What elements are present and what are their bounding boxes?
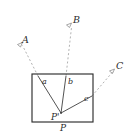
label-point-c: C: [116, 61, 123, 71]
dashed-line-to-c: [92, 72, 113, 97]
dashed-line-to-b: [66, 28, 72, 77]
label-angle-b: b: [68, 78, 73, 86]
ray-p-prime-to-b: [61, 76, 66, 113]
triangle-marker-b-icon: [67, 23, 72, 28]
geometry-figure: A B C a b c P' P: [0, 0, 140, 139]
dashed-line-to-a: [23, 46, 39, 77]
label-point-b: B: [73, 15, 80, 25]
label-angle-c: c: [84, 95, 88, 103]
vertex-dot-p-prime: [60, 112, 62, 114]
label-surface-p: P: [60, 124, 66, 133]
label-angle-a: a: [42, 78, 47, 86]
triangle-marker-c-icon: [110, 69, 115, 74]
label-point-a: A: [22, 35, 29, 45]
label-point-p-prime: P': [51, 113, 60, 122]
